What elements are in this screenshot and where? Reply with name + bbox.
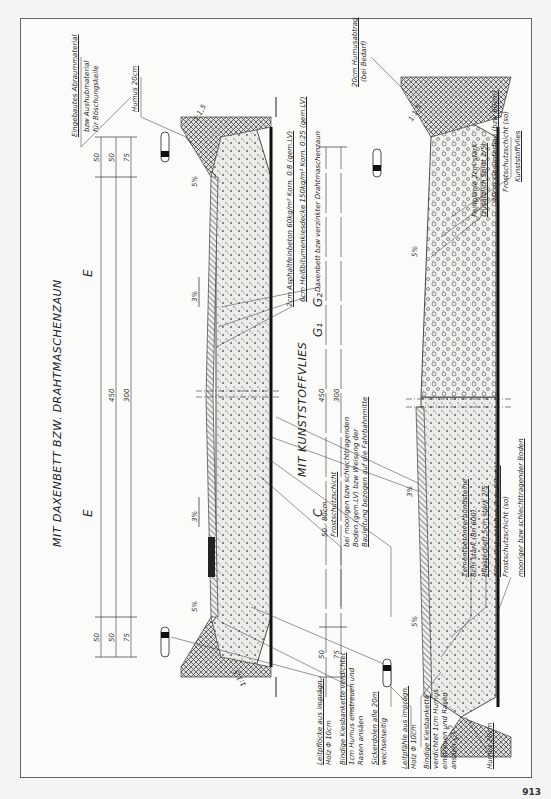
- dimension-value: 75: [333, 650, 341, 659]
- label: 40cm Kiesunterbau (bzw 60cm): [491, 90, 500, 202]
- label: Zementbetonverbundsteine: [461, 479, 470, 577]
- label: wechselseitig: [380, 718, 389, 765]
- slope-label: 5%: [411, 246, 419, 257]
- lane-label: E: [81, 269, 95, 277]
- dimension-value: 50: [93, 633, 101, 642]
- page-number: 913: [522, 787, 541, 797]
- label: Frostschutzschicht: [330, 472, 339, 537]
- label: Frostschutzschicht (so): [502, 496, 511, 577]
- label: bei moorigen bzw schlechttragenden: [343, 417, 352, 547]
- label: 8cm stark (Bn 600): [470, 510, 479, 577]
- dimension-value: 50: [93, 153, 101, 162]
- top-section-title: MIT DAXENBETT BZW. DRAHTMASCHENZAUN: [51, 279, 64, 547]
- label: Humus 20cm: [486, 723, 495, 769]
- rotated-canvas: MIT DAXENBETT BZW. DRAHTMASCHENZAUN E E …: [21, 19, 531, 777]
- label: Boden (gem.LV) bzw Weisung der: [352, 429, 361, 547]
- label: ansäen: [450, 744, 459, 769]
- label: Leitpflöcke aus imprägn.: [316, 678, 325, 765]
- label: (zusätzlich Splitt 2/5): [480, 143, 489, 217]
- dimension-value: 300: [123, 389, 131, 402]
- slope-label: 3%: [406, 486, 414, 497]
- label: 20cm Humusabtrag: [351, 18, 360, 88]
- label: (bei Bedarf): [360, 40, 369, 82]
- lane-label: C: [311, 509, 325, 517]
- label: Bauleitung bezogen auf die Fahrbahnmitte: [361, 397, 370, 547]
- label: 50 - 80cm: [321, 502, 330, 537]
- slope-label: 3%: [191, 511, 199, 522]
- label: Frostschutzschicht (so): [502, 111, 511, 192]
- dimension-value: 50: [108, 153, 116, 162]
- label: Bindige Kiesbankette verdichtet: [339, 653, 348, 765]
- label: Holz Φ 10cm: [325, 720, 334, 765]
- lane-label: G₂: [311, 293, 325, 307]
- label: 2cm Asphaltfeinbeton 60kg/m² Korn. 0:8 (…: [286, 131, 295, 307]
- label: Feinplanie 2cm stark: [471, 144, 480, 217]
- label: Pflasterbett 5cm stark 2/5: [481, 485, 490, 577]
- label: Humus 20cm: [131, 66, 140, 112]
- label: Daxenbett bzw verzinkter Drahtmaschenzau…: [314, 131, 323, 292]
- dimension-value: 50: [318, 650, 326, 659]
- lane-label: G₁: [311, 323, 325, 337]
- label: Rasen ansäen: [357, 716, 366, 765]
- dimension-value: 75: [123, 153, 131, 162]
- label: Eingebautes Abraummaterial: [71, 34, 80, 137]
- label: verdichtet 1cm Humus: [432, 689, 441, 769]
- label: Bindige Kiesbankette: [423, 695, 432, 769]
- label: mooriger bzw schlechttragender Boden: [517, 438, 526, 577]
- label: für Böschungskeile: [92, 65, 101, 132]
- drawing-frame: MIT DAXENBETT BZW. DRAHTMASCHENZAUN E E …: [20, 18, 532, 778]
- label: bzw Aushubmaterial: [83, 61, 92, 132]
- dimension-value: 300: [333, 389, 341, 402]
- label: 40cm Kiesunterbau (bzw 60cm): [493, 465, 502, 577]
- label: Sickerdolen alle 20m: [371, 691, 380, 765]
- slope-label: 5%: [191, 601, 199, 612]
- label: 1cm Humus einstreuen und: [348, 668, 357, 765]
- label: 6cm Heißbitumenkiesdecke 150kg/m² Korn. …: [299, 97, 308, 302]
- label: Kunststoffvlies: [514, 131, 523, 182]
- bottom-section-title: MIT KUNSTSTOFFVLIES: [296, 342, 309, 477]
- lane-label: E: [81, 509, 95, 517]
- dimension-value: 75: [123, 633, 131, 642]
- label: Leitpfähle aus imprägn.: [401, 686, 410, 769]
- label: einstreuen und Rasen: [441, 692, 450, 769]
- slope-label: 5%: [191, 176, 199, 187]
- dimension-value: 50: [108, 633, 116, 642]
- slope-label: 3%: [191, 291, 199, 302]
- dimension-value: 450: [318, 389, 326, 402]
- slope-label: 5%: [411, 616, 419, 627]
- label: Holz Φ 10cm: [410, 724, 419, 769]
- dimension-value: 450: [108, 389, 116, 402]
